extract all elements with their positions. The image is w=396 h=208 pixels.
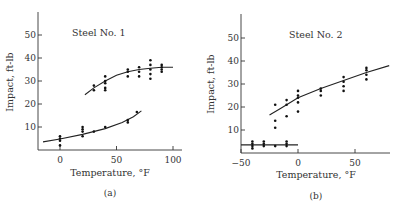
x-tick-label: 100 [164, 155, 181, 165]
y-tick-label: 10 [228, 125, 240, 135]
data-point [93, 84, 96, 87]
data-point [297, 90, 300, 93]
panel-b-title: Steel No. 2 [289, 29, 343, 40]
data-point [59, 135, 62, 138]
data-point [365, 67, 368, 70]
panel-a-steel-no-1: 1020304050 050100 Steel No. 1 Impact, ft… [4, 12, 182, 198]
data-point [274, 120, 277, 123]
panel-b-steel-no-2: 1020304050 −50050 Steel No. 2 Impact, ft… [205, 14, 390, 201]
data-point [285, 103, 288, 106]
panel-a-title: Steel No. 1 [72, 27, 126, 38]
data-point [127, 68, 130, 71]
data-point [251, 147, 254, 150]
y-tick-label: 10 [25, 122, 37, 132]
panel-a-plot-area [43, 59, 173, 147]
data-point [81, 135, 84, 138]
data-point [104, 75, 107, 78]
y-tick-label: 30 [25, 76, 37, 86]
data-point [251, 143, 254, 146]
data-point [365, 78, 368, 81]
data-point [285, 99, 288, 102]
data-point [160, 68, 163, 71]
panel-b-xticks: −50050 [232, 149, 361, 168]
data-point [127, 121, 130, 124]
panel-b-xlabel: Temperature, °F [276, 169, 356, 180]
data-point [342, 90, 345, 93]
x-tick-label: 50 [111, 155, 123, 165]
data-point [320, 87, 323, 90]
data-point [93, 89, 96, 92]
data-point [104, 89, 107, 92]
y-tick-label: 40 [228, 56, 240, 66]
data-point [342, 80, 345, 83]
data-point [93, 130, 96, 133]
data-point [320, 90, 323, 93]
data-point [160, 71, 163, 74]
data-point [104, 126, 107, 129]
data-point [149, 77, 152, 80]
data-point [285, 140, 288, 143]
data-point [285, 143, 288, 146]
data-point [274, 103, 277, 106]
data-point [320, 94, 323, 97]
panel-a-yticks: 1020304050 [25, 30, 42, 132]
data-point [138, 75, 141, 78]
y-tick-label: 20 [25, 99, 37, 109]
y-tick-label: 50 [228, 33, 240, 43]
data-point [149, 73, 152, 76]
data-point [365, 69, 368, 72]
data-point [127, 75, 130, 78]
data-point [342, 76, 345, 79]
panel-b-ylabel: Impact, ft-lb [205, 54, 216, 113]
data-point [251, 140, 254, 143]
data-point [297, 110, 300, 113]
x-tick-label: 0 [295, 158, 301, 168]
data-point [104, 87, 107, 90]
data-point [127, 71, 130, 74]
data-point [285, 145, 288, 148]
data-point [149, 64, 152, 67]
data-point [59, 137, 62, 140]
panel-a-ylabel: Impact, ft-lb [4, 52, 15, 111]
data-point [138, 66, 141, 69]
data-point [297, 97, 300, 100]
data-point [149, 59, 152, 62]
data-point [274, 126, 277, 129]
data-point [297, 101, 300, 104]
data-point [342, 85, 345, 88]
figure: 1020304050 050100 Steel No. 1 Impact, ft… [0, 0, 396, 208]
fit-curve [43, 111, 141, 142]
x-tick-label: 0 [57, 155, 63, 165]
data-point [59, 140, 62, 143]
data-point [81, 128, 84, 131]
data-point [138, 71, 141, 74]
data-point [365, 74, 368, 77]
y-tick-label: 20 [228, 102, 240, 112]
data-point [81, 126, 84, 129]
data-point [160, 66, 163, 69]
data-point [285, 115, 288, 118]
data-point [59, 144, 62, 147]
y-tick-label: 30 [228, 79, 240, 89]
panel-a-xticks: 050100 [57, 146, 182, 165]
data-point [127, 119, 130, 122]
y-tick-label: 40 [25, 53, 37, 63]
data-point [251, 145, 254, 148]
panel-b-plot-area [241, 66, 389, 150]
data-point [81, 130, 84, 133]
data-point [263, 140, 266, 143]
data-point [149, 68, 152, 71]
panel-b-yticks: 1020304050 [228, 33, 245, 135]
data-point [274, 145, 277, 148]
data-point [104, 82, 107, 85]
fit-curve [270, 66, 390, 115]
panel-a-xlabel: Temperature, °F [70, 167, 150, 178]
data-point [263, 145, 266, 148]
x-tick-label: 50 [349, 158, 361, 168]
y-tick-label: 50 [25, 30, 37, 40]
data-point [263, 143, 266, 146]
data-point [160, 64, 163, 67]
data-point [297, 94, 300, 97]
data-point [104, 80, 107, 83]
x-tick-label: −50 [232, 158, 251, 168]
